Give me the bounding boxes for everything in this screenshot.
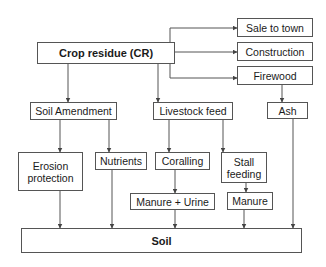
- node-erosion-protection: Erosion protection: [18, 152, 83, 191]
- node-soil-amendment: Soil Amendment: [30, 102, 117, 120]
- node-soil: Soil: [21, 228, 302, 253]
- node-stall-feeding: Stall feeding: [221, 152, 267, 183]
- node-construction: Construction: [237, 42, 313, 61]
- node-crop-residue: Crop residue (CR): [37, 42, 175, 64]
- node-manure-urine: Manure + Urine: [130, 193, 215, 210]
- node-coralling: Coralling: [155, 152, 210, 170]
- node-livestock-feed: Livestock feed: [153, 102, 233, 120]
- node-manure: Manure: [227, 192, 273, 210]
- node-firewood: Firewood: [237, 66, 313, 85]
- node-sale-to-town: Sale to town: [237, 18, 313, 37]
- node-nutrients: Nutrients: [95, 152, 147, 170]
- node-ash: Ash: [267, 102, 308, 119]
- connector-arrows: [0, 0, 326, 267]
